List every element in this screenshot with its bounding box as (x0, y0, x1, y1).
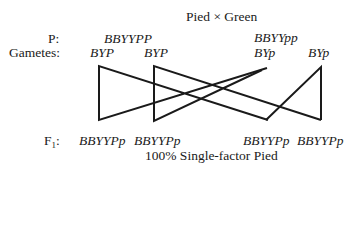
f1-label-main: F (44, 133, 52, 148)
genotype-suffix: p (337, 133, 344, 148)
offspring-1: BBYYPp (79, 134, 126, 148)
offspring-2: BBYYPp (134, 134, 181, 148)
f1-label-colon: : (56, 133, 60, 148)
genotype-suffix: p (283, 133, 290, 148)
genotype-prefix: BBYYP (243, 133, 283, 148)
cross-result: 100% Single-factor Pied (145, 149, 278, 163)
genotype-suffix: p (174, 133, 181, 148)
offspring-3: BBYYPp (243, 134, 290, 148)
f1-row-label: F1: (44, 134, 60, 150)
cross-line-a (99, 66, 268, 120)
genotype-suffix: p (119, 133, 126, 148)
genotype-prefix: BBYYP (297, 133, 337, 148)
cross-line-b (154, 66, 321, 121)
genotype-prefix: BBYYP (79, 133, 119, 148)
offspring-4: BBYYPp (297, 134, 344, 148)
genotype-prefix: BBYYP (134, 133, 174, 148)
